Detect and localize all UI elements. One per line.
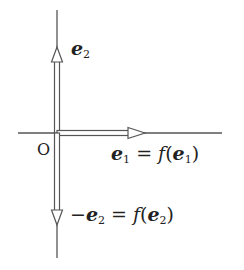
equals-sign: =: [105, 203, 133, 225]
e1-vector: e: [111, 142, 123, 164]
e2-subscript: 2: [98, 214, 105, 227]
e2-subscript: 2: [83, 48, 90, 61]
e2-label: e2: [71, 37, 90, 61]
equals-sign: =: [130, 142, 158, 164]
minus-sign: −: [70, 203, 86, 225]
e2-vector: e: [86, 203, 98, 225]
function-f: f: [158, 142, 165, 164]
e1-equation-label: e1 = f(e1): [111, 142, 199, 166]
e2-arg-vector: e: [147, 203, 159, 225]
e2-arrow: [52, 47, 63, 133]
e2-arg-subscript: 2: [160, 214, 167, 227]
vector-diagram: [0, 0, 244, 270]
e1-arg-vector: e: [173, 142, 185, 164]
e2-vector: e: [71, 37, 83, 59]
e1-arrow: [57, 128, 145, 139]
function-f: f: [133, 203, 140, 225]
origin-label: O: [37, 140, 50, 159]
neg-e2-arrow: [52, 133, 63, 225]
neg-e2-equation-label: −e2 = f(e2): [70, 203, 174, 227]
e1-arg-subscript: 1: [185, 153, 192, 166]
